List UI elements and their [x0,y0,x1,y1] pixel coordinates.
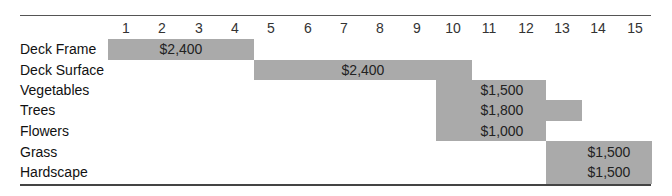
row-label-trees: Trees [20,100,55,120]
row-label-grass: Grass [20,142,57,162]
row-label-vegetables: Vegetables [20,80,89,100]
tick-9: 9 [399,20,435,36]
tick-3: 3 [181,20,217,36]
tick-11: 11 [471,20,507,36]
tick-14: 14 [580,20,616,36]
tick-5: 5 [253,20,289,36]
row-label-hardscape: Hardscape [20,162,88,182]
cost-flowers: $1,000 [457,121,547,141]
cost-deck-surface: $2,400 [318,60,408,80]
tick-10: 10 [435,20,471,36]
row-label-deck-surface: Deck Surface [20,60,104,80]
tick-6: 6 [290,20,326,36]
tick-4: 4 [217,20,253,36]
row-label-deck-frame: Deck Frame [20,39,96,59]
tick-1: 1 [108,20,144,36]
cost-hardscape: $1,500 [564,162,654,182]
tick-15: 15 [617,20,653,36]
tick-12: 12 [508,20,544,36]
tick-2: 2 [144,20,180,36]
tick-7: 7 [326,20,362,36]
cost-vegetables: $1,500 [457,80,547,100]
cost-deck-frame: $2,400 [108,39,254,59]
row-label-flowers: Flowers [20,121,69,141]
tick-8: 8 [362,20,398,36]
cost-grass: $1,500 [564,142,654,162]
tick-13: 13 [544,20,580,36]
top-rule [20,15,651,16]
cost-trees: $1,800 [457,100,547,120]
bottom-rule [20,184,651,186]
